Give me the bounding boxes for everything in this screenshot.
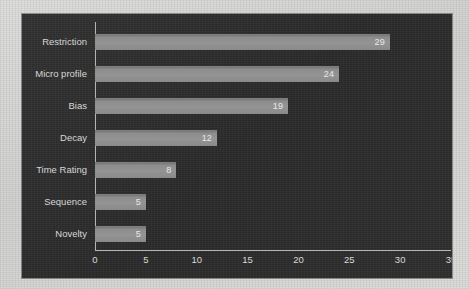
category-label: Micro profile [35, 67, 87, 81]
bar-value-label: 12 [95, 131, 212, 145]
category-label: Bias [69, 99, 87, 113]
x-axis-tick-label: 15 [242, 254, 253, 266]
bar-value-label: 19 [95, 99, 283, 113]
category-label: Time Rating [36, 163, 87, 177]
bar-row[interactable]: Micro profile 24 [95, 58, 452, 90]
x-axis-tick-label: 5 [143, 254, 148, 266]
bars-layer: Restriction 29 Micro profile 24 Bias 19 … [95, 26, 452, 250]
bar-row[interactable]: Decay 12 [95, 122, 452, 154]
category-label: Sequence [44, 195, 87, 209]
x-axis-tick-labels: 05101520253035 [22, 254, 452, 274]
bar-row[interactable]: Restriction 29 [95, 26, 452, 58]
x-axis-tick-label: 20 [293, 254, 304, 266]
bar-value-label: 24 [95, 67, 334, 81]
bar-value-label: 5 [95, 227, 141, 241]
category-label: Novelty [55, 227, 87, 241]
x-axis-tick-label: 35 [446, 254, 452, 266]
category-label: Decay [60, 131, 87, 145]
plot-area: Restriction 29 Micro profile 24 Bias 19 … [22, 14, 452, 278]
x-axis-tick-label: 0 [92, 254, 97, 266]
category-label: Restriction [42, 35, 87, 49]
bar-row[interactable]: Sequence 5 [95, 186, 452, 218]
bar-value-label: 29 [95, 35, 385, 49]
x-axis-line [95, 250, 451, 251]
x-axis-tick-label: 10 [191, 254, 202, 266]
x-axis-tick-label: 25 [344, 254, 355, 266]
x-axis-tick-label: 30 [395, 254, 406, 266]
bar-chart-panel: Restriction 29 Micro profile 24 Bias 19 … [22, 14, 452, 278]
bar-value-label: 5 [95, 195, 141, 209]
bar-row[interactable]: Novelty 5 [95, 218, 452, 250]
bar-row[interactable]: Bias 19 [95, 90, 452, 122]
bar-value-label: 8 [95, 163, 171, 177]
bar-row[interactable]: Time Rating 8 [95, 154, 452, 186]
